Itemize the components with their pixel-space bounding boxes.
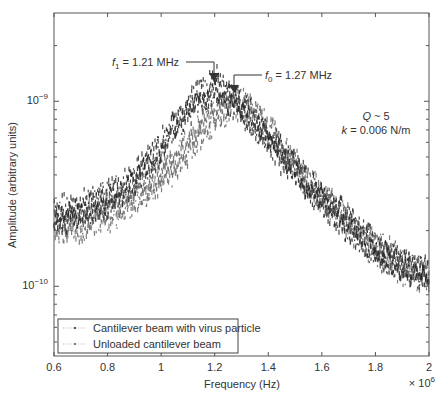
legend: Cantilever beam with virus particle Unlo…: [58, 319, 261, 353]
svg-text:1: 1: [158, 361, 164, 373]
legend-marker-loaded: [74, 327, 76, 329]
x-axis-multiplier: × 106: [409, 375, 436, 389]
f0-arrow-line: [234, 75, 262, 86]
legend-label-loaded: Cantilever beam with virus particle: [93, 322, 261, 334]
svg-text:0.6: 0.6: [46, 361, 61, 373]
svg-text:1.8: 1.8: [368, 361, 383, 373]
svg-text:1.2: 1.2: [207, 361, 222, 373]
legend-marker-unloaded: [74, 343, 76, 345]
resonance-chart: 0.60.811.21.41.61.82 10−9 10−10 Frequenc…: [0, 0, 440, 400]
series-cantilever-with-virus: [53, 64, 429, 290]
spring-constant-annotation: k = 0.006 N/m: [342, 124, 411, 136]
x-tick-labels: 0.60.811.21.41.61.82: [46, 361, 432, 373]
f0-annotation: f0 = 1.27 MHz: [265, 69, 332, 84]
legend-label-unloaded: Unloaded cantilever beam: [93, 338, 221, 350]
svg-text:0.8: 0.8: [100, 361, 115, 373]
q-factor-annotation: Q ~ 5: [362, 110, 389, 122]
svg-text:2: 2: [426, 361, 432, 373]
svg-text:1.6: 1.6: [314, 361, 329, 373]
x-axis-label: Frequency (Hz): [204, 378, 280, 390]
y-axis-label: Amplitude (arbitrary units): [6, 122, 18, 248]
f1-annotation: f1 = 1.21 MHz: [112, 56, 179, 71]
y-tick-label-1e-10: 10−10: [22, 277, 48, 291]
svg-text:1.4: 1.4: [261, 361, 276, 373]
y-tick-label-1e-9: 10−9: [27, 92, 49, 106]
